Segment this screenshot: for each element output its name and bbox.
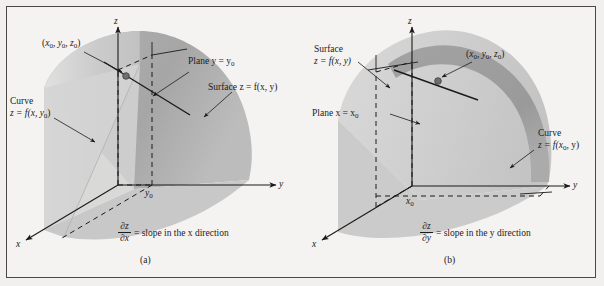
point-label-b: (x0, y0, z0) <box>466 49 504 61</box>
caption-a: (a) <box>140 255 151 265</box>
panel-a: (x0, y0, z0) Curve z = f(x, y0) Plane y … <box>0 0 302 286</box>
formula-b: ∂z ∂y = slope in the y direction <box>420 222 531 243</box>
formula-a-text: = slope in the x direction <box>134 228 229 238</box>
axis-label-x-a: x <box>16 239 20 249</box>
axis-label-y-a: y <box>279 179 283 189</box>
panel-b: Surface z = f(x, y) Plane x = x0 (x0, y0… <box>302 0 604 286</box>
plane-label-b: Plane x = x0 <box>312 108 359 123</box>
axis-label-x-b: x <box>312 239 316 249</box>
plane-label-a: Plane y = y0 <box>188 56 235 71</box>
point-label-a: (x0, y0, z0) <box>42 38 80 50</box>
surface-label-a: Surface z = f(x, y) <box>208 82 277 94</box>
surface-label-b: Surface z = f(x, y) <box>314 44 351 67</box>
formula-a: ∂z ∂x = slope in the x direction <box>118 222 229 243</box>
tick-label-y0-a: y0 <box>145 188 153 203</box>
formula-b-text: = slope in the y direction <box>436 228 531 238</box>
tick-label-x0-b: x0 <box>406 196 414 211</box>
caption-b: (b) <box>444 255 455 265</box>
curve-label-a: Curve z = f(x, y0) <box>10 96 51 122</box>
axis-label-y-b: y <box>573 180 577 190</box>
axis-label-z-a: z <box>114 16 118 26</box>
partial-derivative-figure: (x0, y0, z0) Curve z = f(x, y0) Plane y … <box>0 0 604 286</box>
axis-label-z-b: z <box>408 16 412 26</box>
curve-label-b: Curve z = f(x0, y) <box>538 128 579 154</box>
